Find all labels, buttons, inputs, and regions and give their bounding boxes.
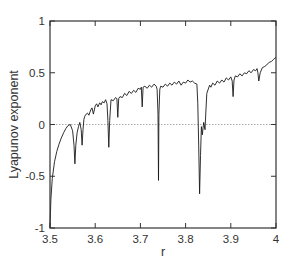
lyapunov-chart: 3.53.63.73.83.94 -1-0.500.51 r Lyapunov … [0, 0, 292, 263]
x-tick-label: 3.8 [178, 233, 194, 245]
y-tick-label: -1 [35, 222, 45, 234]
x-tick-label: 3.6 [87, 233, 103, 245]
x-axis: 3.53.63.73.83.94 [42, 21, 280, 245]
y-tick-label: -0.5 [25, 170, 45, 182]
y-tick-label: 0 [39, 119, 45, 131]
x-tick-label: 4 [273, 233, 280, 245]
x-axis-label: r [161, 245, 165, 259]
y-tick-label: 1 [39, 15, 45, 27]
series-line [50, 57, 276, 228]
y-axis-label: Lyapunov exponent [7, 70, 21, 179]
lyapunov-curve [50, 57, 276, 228]
y-tick-label: 0.5 [29, 67, 45, 79]
x-tick-label: 3.7 [132, 233, 148, 245]
x-tick-label: 3.9 [223, 233, 239, 245]
x-tick-label: 3.5 [42, 233, 58, 245]
